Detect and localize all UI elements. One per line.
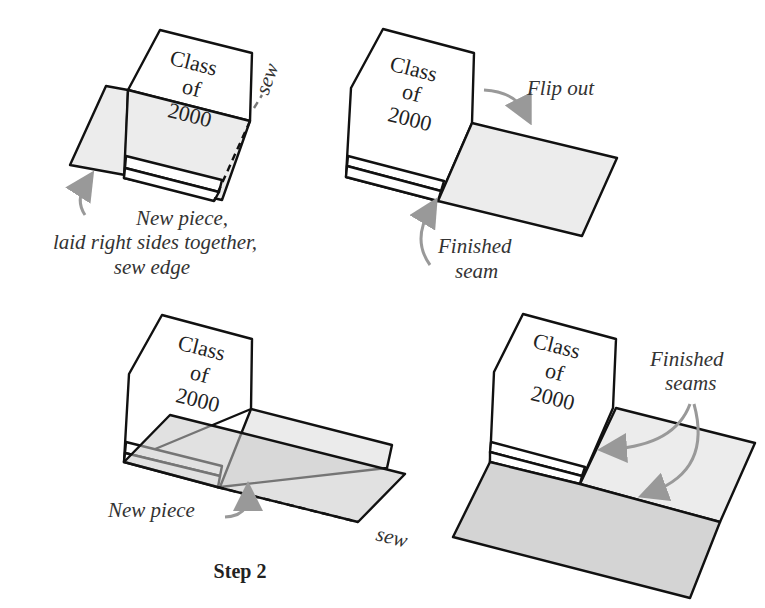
svg-text:Finished: Finished [649,347,724,371]
step-title: Step 2 [214,560,267,583]
panel-2: Class of 2000 Flip out Finished seam [346,29,617,283]
svg-text:New piece: New piece [107,498,195,522]
svg-text:sew edge: sew edge [114,255,190,279]
sew-label: sew [250,60,283,98]
panel-3: Class of 2000 New piece sew Step 2 [107,315,410,583]
svg-text:New piece,: New piece, [135,206,228,230]
new-piece-left [70,86,128,175]
svg-text:sew: sew [374,522,410,553]
arrow-icon [421,210,430,265]
svg-text:Finished: Finished [437,234,512,258]
quilt-diagram: sew Class of 2000 New piece, laid right … [0,0,765,608]
svg-text:seams: seams [665,371,716,395]
arrow-icon [484,90,525,112]
flipped-piece [438,123,617,236]
panel-1: sew Class of 2000 New piece, laid right … [53,30,284,279]
panel-4: Class of 2000 Finished seams [453,314,755,598]
arrow-icon [80,183,86,215]
svg-text:laid right sides together,: laid right sides together, [53,230,257,254]
arrow-icon [225,496,248,517]
svg-text:seam: seam [455,259,498,283]
svg-text:Flip out: Flip out [526,76,595,100]
